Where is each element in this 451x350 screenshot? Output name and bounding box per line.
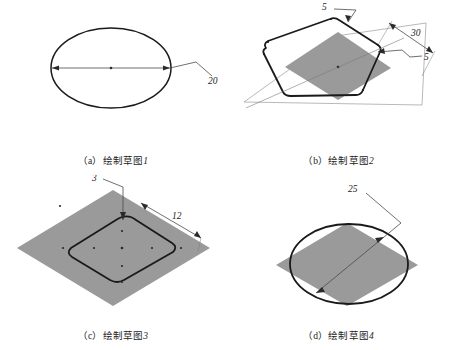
- fillet-radius-dimension-5-right: 5: [424, 52, 429, 62]
- fillet-radius-dimension-5-top: 5: [322, 2, 327, 12]
- panel-d-canvas: 25: [226, 175, 451, 350]
- panel-d: 25 （d）绘制草图4: [226, 175, 451, 350]
- panel-d-caption-number: 4: [369, 331, 374, 341]
- vertex-point: [267, 41, 269, 43]
- dimension-arrow-12-end: [194, 231, 201, 238]
- diameter-dimension-20: 20: [208, 76, 218, 86]
- panel-d-caption-index: （d）绘制草图: [303, 331, 369, 341]
- sketch-point: [59, 205, 61, 207]
- width-dimension-12: 12: [172, 211, 182, 221]
- sketch-point: [121, 281, 123, 283]
- panel-b-caption: （b）绘制草图2: [226, 153, 451, 167]
- sketch-point: [151, 247, 153, 249]
- panel-a-caption: （a）绘制草图1: [0, 153, 226, 167]
- panel-b-canvas: 5 30 5: [226, 0, 451, 175]
- extension-line-30-a: [378, 21, 392, 45]
- dimension-arrow-right: [163, 66, 170, 71]
- sketch-point: [93, 247, 95, 249]
- panel-c-caption: （c）绘制草图3: [0, 328, 226, 342]
- panel-a-canvas: 20: [0, 0, 226, 175]
- vertex-point: [330, 18, 332, 20]
- panel-b: 5 30 5 （b）绘制草图2: [226, 0, 451, 175]
- dimension-leader-line: [170, 62, 212, 76]
- sketch-point: [121, 265, 123, 267]
- panel-a-caption-index: （a）绘制草图: [78, 156, 144, 166]
- panel-c-canvas: 3 12: [0, 175, 226, 350]
- width-dimension-30: 30: [410, 28, 421, 38]
- diameter-dimension-25: 25: [348, 184, 358, 194]
- vertex-point: [290, 95, 292, 97]
- fillet-leader-top: [334, 9, 356, 22]
- gray-diamond-plane: [276, 223, 418, 306]
- sketch-point: [121, 230, 123, 232]
- panel-b-caption-index: （b）绘制草图: [303, 156, 369, 166]
- panel-b-caption-number: 2: [369, 156, 374, 166]
- figure-sheet: 20 （a）绘制草图1 5: [0, 0, 451, 350]
- panel-a-caption-number: 1: [143, 156, 148, 166]
- panel-d-caption: （d）绘制草图4: [226, 328, 451, 342]
- dimension-leader-25: [366, 193, 401, 237]
- panel-c-caption-number: 3: [143, 331, 148, 341]
- panel-c-caption-index: （c）绘制草图: [78, 331, 144, 341]
- dimension-arrow-left: [52, 66, 59, 71]
- vertex-point: [263, 53, 265, 55]
- center-point: [121, 247, 124, 250]
- sketch-point: [62, 247, 64, 249]
- panel-c: 3 12 （c）绘制草图3: [0, 175, 226, 350]
- fillet-radius-dimension-3: 3: [91, 175, 97, 183]
- sketch-point: [180, 247, 182, 249]
- panel-a: 20 （a）绘制草图1: [0, 0, 226, 175]
- vertex-point: [362, 89, 364, 91]
